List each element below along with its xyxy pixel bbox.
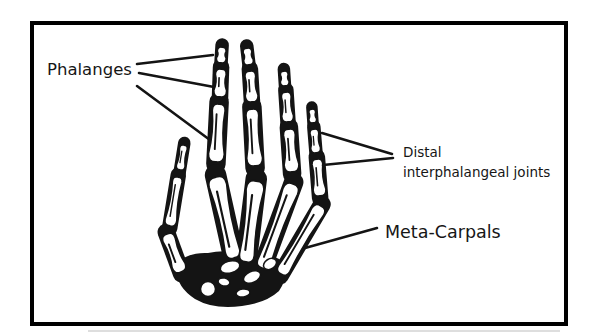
phalanges-leader-line-1: [137, 55, 213, 64]
label-distal-line1: Distal: [403, 144, 442, 160]
phalanges-leader-line-3: [137, 86, 210, 140]
label-phalanges: Phalanges: [47, 60, 132, 79]
scan-artifact: [88, 330, 560, 332]
label-distal-line2: interphalangeal joints: [403, 164, 550, 180]
label-meta-carpals: Meta-Carpals: [385, 222, 501, 242]
skeletal-hand: [162, 45, 326, 307]
label-distal-interphalangeal: Distal interphalangeal joints: [403, 142, 550, 182]
phalanges-leader-line-2: [139, 73, 214, 87]
distal-joints-leader-line-2: [323, 158, 393, 165]
diagram-canvas: Phalanges Distal interphalangeal joints …: [0, 0, 592, 334]
distal-joints-leader-line-1: [322, 133, 392, 154]
